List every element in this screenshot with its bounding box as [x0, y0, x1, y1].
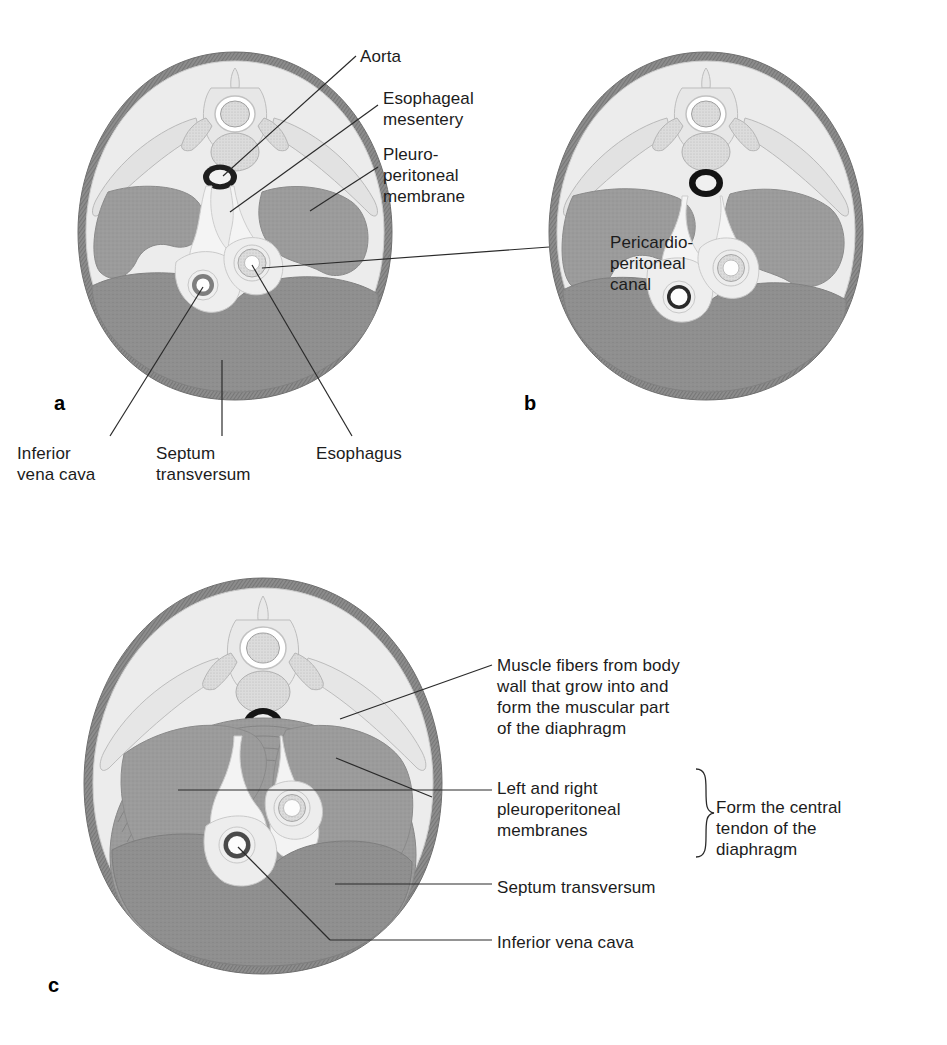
esophagus-a — [234, 245, 270, 281]
label-aorta: Aorta — [360, 46, 401, 67]
spinal-cord-c — [247, 633, 280, 663]
grouping-brace-c — [696, 769, 714, 857]
panel-letter-c: c — [48, 974, 59, 997]
inferior-vena-cava-a — [188, 270, 218, 300]
label-esophagus-a: Esophagus — [316, 443, 402, 464]
panel-c-illustration — [84, 578, 714, 974]
aorta-b — [689, 169, 723, 197]
spinal-cord-a — [221, 101, 250, 127]
label-septum-transversum-a: Septum transversum — [156, 443, 251, 485]
vertebral-body-c — [236, 671, 290, 713]
figure-root: Aorta Esophageal mesentery Pleuro- perit… — [0, 0, 947, 1045]
label-muscle-fibers: Muscle fibers from body wall that grow i… — [497, 655, 680, 739]
label-inferior-vena-cava-c: Inferior vena cava — [497, 932, 634, 953]
label-central-tendon-note: Form the central tendon of the diaphragm — [716, 797, 841, 860]
panel-a-illustration — [78, 52, 604, 436]
label-pericardioperitoneal-canal: Pericardio- peritoneal canal — [610, 232, 693, 295]
vertebral-body-b — [682, 133, 730, 171]
label-esophageal-mesentery: Esophageal mesentery — [383, 88, 474, 130]
panel-b-illustration — [549, 52, 863, 400]
esophagus-b — [713, 250, 749, 286]
spinal-cord-b — [692, 101, 721, 127]
panel-letter-b: b — [524, 392, 536, 415]
label-pleuroperitoneal-membrane: Pleuro- peritoneal membrane — [383, 144, 465, 207]
inferior-vena-cava-c — [219, 827, 255, 863]
label-inferior-vena-cava-a: Inferior vena cava — [17, 443, 95, 485]
label-pleuroperitoneal-membranes-c: Left and right pleuroperitoneal membrane… — [497, 778, 621, 841]
anatomy-illustration — [0, 0, 947, 1045]
panel-letter-a: a — [54, 392, 65, 415]
label-septum-transversum-c: Septum transversum — [497, 877, 656, 898]
esophagus-c — [274, 790, 310, 826]
